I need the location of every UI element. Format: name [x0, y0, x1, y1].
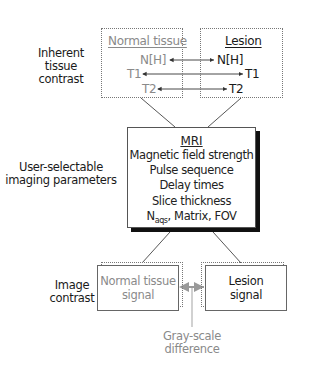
grayscale-difference-label: Gray-scale difference [152, 330, 232, 356]
mri-param-pulse-sequence: Pulse sequence [128, 163, 255, 178]
normal-tissue-signal-box: Normal tissue signal [97, 265, 179, 311]
mri-param-delay-times: Delay times [128, 178, 255, 193]
mri-param-field-strength: Magnetic field strength [128, 148, 255, 163]
image-contrast-label: Image contrast [46, 279, 98, 305]
lesion-t2: T2 [229, 83, 243, 96]
inherent-tissue-contrast-label: Inherent tissue contrast [22, 47, 100, 86]
mri-parameters-box: MRI Magnetic field strength Pulse sequen… [127, 127, 256, 228]
lesion-t1: T1 [245, 68, 259, 81]
lesion-signal-box: Lesion signal [205, 265, 287, 311]
mri-title: MRI [128, 134, 255, 148]
normal-tissue-title: Normal tissue [108, 34, 187, 48]
lesion-title: Lesion [225, 34, 262, 48]
mri-param-naqs-matrix-fov: Naqs, Matrix, FOV [128, 209, 255, 229]
user-selectable-label: User-selectable imaging parameters [2, 161, 120, 187]
normal-t1: T1 [127, 68, 141, 81]
mri-param-slice-thickness: Slice thickness [128, 194, 255, 209]
lesion-nh: N[H] [217, 54, 243, 67]
normal-nh: N[H] [140, 54, 166, 67]
normal-t2: T2 [142, 83, 156, 96]
